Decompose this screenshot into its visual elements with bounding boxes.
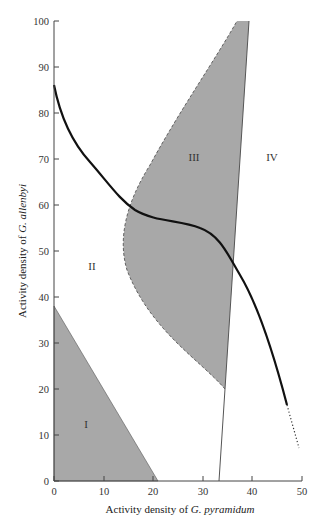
- y-tick-label: 100: [33, 16, 49, 27]
- x-tick-label: 0: [51, 486, 56, 497]
- region-label-iv: IV: [266, 151, 278, 163]
- y-tick-label: 40: [39, 292, 50, 303]
- x-tick-label: 10: [99, 486, 110, 497]
- y-tick-label: 30: [39, 338, 50, 349]
- chart: 0 10 20 30 40 50 60 70 80 90 100 0 10 20…: [0, 0, 324, 522]
- y-axis-title: Activity density of G. allenbyi: [16, 184, 28, 318]
- region-i-area: [54, 306, 158, 481]
- y-tick-label: 10: [39, 430, 50, 441]
- y-tick-label: 70: [39, 154, 50, 165]
- region-label-iii: III: [189, 151, 200, 163]
- x-axis-title: Activity density of G. pyramidum: [106, 503, 255, 515]
- x-tick-label: 50: [297, 486, 308, 497]
- y-tick-label: 90: [39, 62, 50, 73]
- x-tick-label: 20: [148, 486, 159, 497]
- y-tick-label: 50: [39, 246, 50, 257]
- y-tick-labels: 0 10 20 30 40 50 60 70 80 90 100: [33, 16, 49, 487]
- region-label-ii: II: [88, 260, 96, 272]
- region-iii-area: [123, 21, 249, 389]
- y-tick-label: 20: [39, 384, 50, 395]
- isoleg-curve-extension: [287, 405, 299, 448]
- x-tick-label: 30: [198, 486, 209, 497]
- y-tick-label: 60: [39, 200, 50, 211]
- x-tick-label: 40: [247, 486, 258, 497]
- x-tick-labels: 0 10 20 30 40 50: [51, 486, 307, 497]
- y-tick-label: 80: [39, 108, 50, 119]
- region-label-i: I: [84, 418, 88, 430]
- y-tick-label: 0: [44, 476, 49, 487]
